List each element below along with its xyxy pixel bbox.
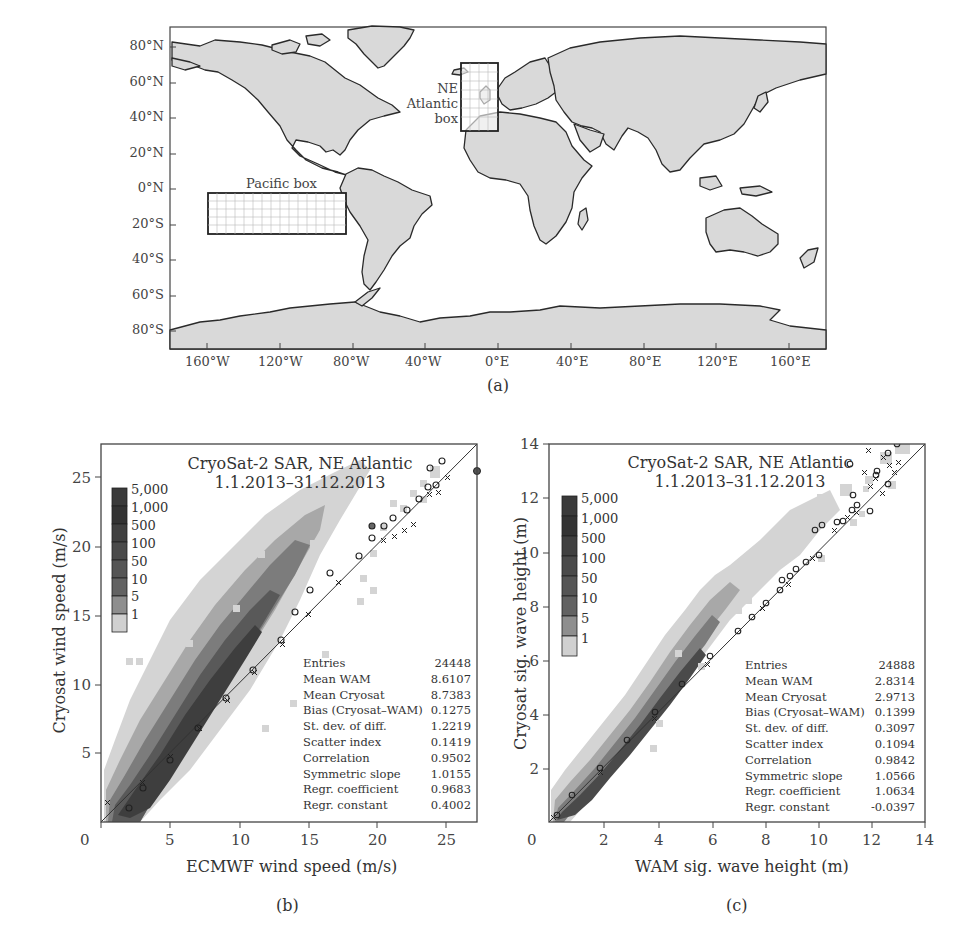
c-plot-title: CryoSat-2 SAR, NE Atlantic 1.1.2013–31.1… (590, 453, 890, 491)
colorbar-c (562, 496, 577, 656)
panel-c-label: (c) (726, 896, 747, 915)
c-stats-table: Entries24888 Mean WAM2.8314 Mean Cryosat… (745, 658, 915, 816)
c-colorbar-labels: 5,000 1,000 500 100 50 10 5 1 (581, 489, 618, 649)
c-y-axis-title: Cryosat sig. wave height (m) (511, 514, 530, 754)
c-x-axis-title: WAM sig. wave height (m) (635, 857, 849, 876)
